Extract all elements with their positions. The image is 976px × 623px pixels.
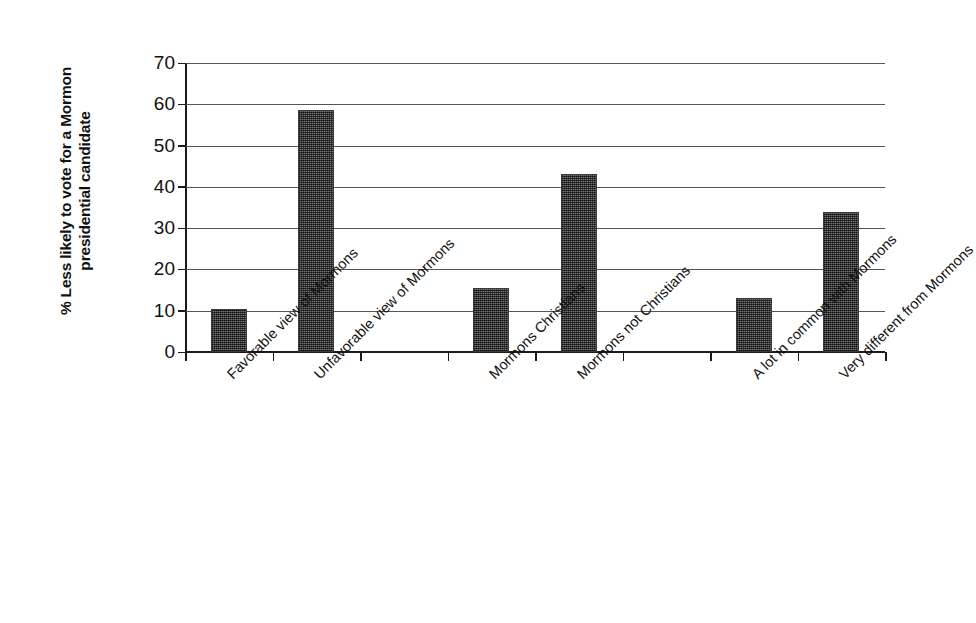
gridline bbox=[185, 104, 885, 105]
y-axis-title-line-1: % Less likely to vote for a Mormon bbox=[56, 66, 75, 314]
bar[interactable] bbox=[561, 174, 597, 352]
x-tick-mark bbox=[710, 352, 712, 361]
bar[interactable] bbox=[298, 110, 334, 352]
y-axis-line bbox=[185, 63, 187, 352]
y-axis-title: % Less likely to vote for a Mormon presi… bbox=[38, 18, 112, 363]
bar[interactable] bbox=[736, 298, 772, 352]
gridline bbox=[185, 187, 885, 188]
gridline bbox=[185, 228, 885, 229]
gridline bbox=[185, 63, 885, 64]
x-tick-mark bbox=[185, 352, 187, 361]
y-tick-label: 20 bbox=[115, 259, 175, 278]
y-tick-mark bbox=[178, 228, 186, 230]
x-tick-mark bbox=[535, 352, 537, 361]
y-tick-mark bbox=[178, 186, 186, 188]
y-tick-mark bbox=[178, 104, 186, 106]
y-tick-mark bbox=[178, 63, 186, 65]
y-tick-label: 60 bbox=[115, 94, 175, 113]
y-tick-mark bbox=[178, 145, 186, 147]
y-tick-label: 0 bbox=[115, 342, 175, 361]
y-tick-label: 40 bbox=[115, 177, 175, 196]
x-tick-mark bbox=[623, 352, 625, 361]
x-tick-mark bbox=[798, 352, 800, 361]
x-tick-mark bbox=[885, 352, 887, 361]
x-tick-mark bbox=[360, 352, 362, 361]
bar[interactable] bbox=[473, 288, 509, 352]
x-tick-mark bbox=[273, 352, 275, 361]
gridline bbox=[185, 146, 885, 147]
y-tick-label: 30 bbox=[115, 218, 175, 237]
x-tick-mark bbox=[448, 352, 450, 361]
y-tick-mark bbox=[178, 310, 186, 312]
gridline bbox=[185, 269, 885, 270]
y-tick-label: 70 bbox=[115, 53, 175, 72]
bar[interactable] bbox=[211, 309, 247, 352]
y-tick-label: 10 bbox=[115, 301, 175, 320]
y-axis-title-line-2: presidential candidate bbox=[75, 66, 94, 314]
y-tick-mark bbox=[178, 269, 186, 271]
y-tick-label: 50 bbox=[115, 136, 175, 155]
